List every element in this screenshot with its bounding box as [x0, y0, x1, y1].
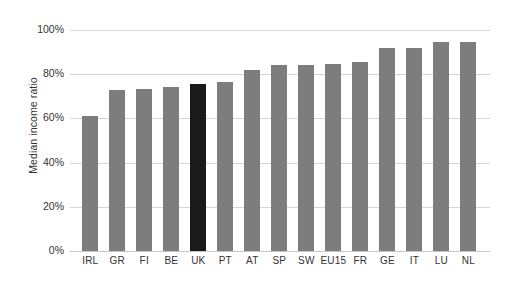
- y-axis-tick-label: 100%: [22, 24, 64, 35]
- bar-sw: [298, 65, 314, 251]
- bar-uk: [190, 84, 206, 251]
- bar-chart: Median income ratio 0%20%40%60%80%100% I…: [0, 0, 514, 287]
- bar-sp: [271, 65, 287, 251]
- bar-nl: [460, 42, 476, 251]
- bar-fi: [136, 89, 152, 251]
- y-axis-tick-label: 40%: [22, 157, 64, 168]
- bar-irl: [82, 116, 98, 251]
- y-axis-tick-label: 60%: [22, 112, 64, 123]
- y-axis-tick-label: 0%: [22, 245, 64, 256]
- bar-be: [163, 87, 179, 251]
- bar-lu: [433, 42, 449, 251]
- y-axis-tick-label: 80%: [22, 68, 64, 79]
- bar-fr: [352, 62, 368, 251]
- bar-ge: [379, 48, 395, 251]
- bar-eu15: [325, 64, 341, 251]
- bar-gr: [109, 90, 125, 251]
- bar-it: [406, 48, 422, 251]
- bar-pt: [217, 82, 233, 251]
- bars-container: [70, 30, 490, 251]
- x-axis-tick-label: NL: [448, 255, 488, 266]
- x-axis-tick-labels: IRLGRFIBEUKPTATSPSWEU15FRGEITLUNL: [70, 255, 490, 275]
- y-axis-tick-label: 20%: [22, 201, 64, 212]
- y-axis-title: Median income ratio: [22, 0, 44, 251]
- bar-at: [244, 70, 260, 251]
- gridline: [70, 251, 490, 252]
